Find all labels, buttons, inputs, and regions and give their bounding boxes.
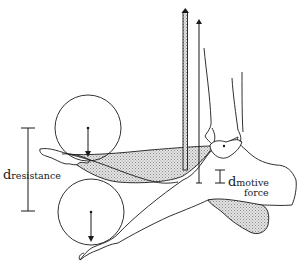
lower-weight-circle [58,179,124,245]
upper-weight-circle [55,95,121,161]
resistance-distance-label: dresistance [3,166,61,182]
jaw-lever-diagram [0,0,306,269]
resistance-subscript: resistance [11,170,61,181]
motive-force-subscript-line2: force [244,188,269,198]
shaded-muscle-lower [208,199,269,234]
motive-force-shaded-rod [182,8,190,170]
stalk-left [204,48,212,144]
stalk-right [232,78,241,142]
